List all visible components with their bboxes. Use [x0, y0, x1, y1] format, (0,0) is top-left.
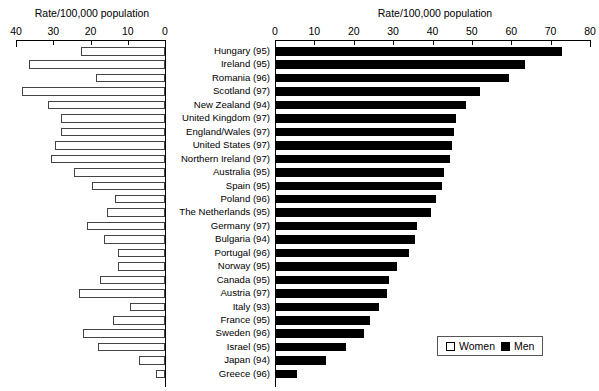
category-label: Norway (95)	[168, 260, 270, 271]
right-axis-tick	[511, 40, 512, 45]
table-row	[115, 195, 165, 204]
table-row	[83, 329, 165, 338]
table-row	[100, 276, 165, 285]
table-row	[74, 168, 165, 177]
category-label: Israel (95)	[168, 341, 270, 352]
category-label: Australia (95)	[168, 166, 270, 177]
table-row	[275, 101, 466, 110]
right-axis-tick	[551, 40, 552, 45]
category-label: Bulgaria (94)	[168, 233, 270, 244]
table-row	[29, 60, 165, 69]
legend-label-women: Women	[459, 340, 495, 352]
category-label: Ireland (95)	[168, 58, 270, 69]
table-row	[275, 195, 436, 204]
left-axis-tick	[128, 40, 129, 45]
left-axis-tick	[53, 40, 54, 45]
chart-legend: Women Men	[437, 336, 543, 356]
category-label: The Netherlands (95)	[168, 206, 270, 217]
category-label: Northern Ireland (97)	[168, 153, 270, 164]
category-label: New Zealand (94)	[168, 99, 270, 110]
category-label: United States (97)	[168, 139, 270, 150]
table-row	[92, 182, 165, 191]
table-row	[107, 208, 165, 217]
left-axis-tick-label: 0	[151, 25, 179, 37]
category-label: France (95)	[168, 314, 270, 325]
right-axis-title: Rate/100,000 population	[275, 7, 595, 19]
table-row	[156, 370, 165, 379]
table-row	[275, 316, 370, 325]
category-label: Sweden (96)	[168, 327, 270, 338]
right-axis-tick-label: 70	[537, 25, 565, 37]
table-row	[81, 47, 165, 56]
category-label: Hungary (95)	[168, 45, 270, 56]
table-row	[275, 74, 509, 83]
paired-bar-chart: Rate/100,000 population Rate/100,000 pop…	[0, 0, 599, 391]
table-row	[48, 101, 165, 110]
table-row	[275, 356, 326, 365]
right-axis-tick-label: 0	[261, 25, 289, 37]
table-row	[51, 155, 165, 164]
table-row	[275, 235, 415, 244]
table-row	[275, 60, 525, 69]
category-label: Scotland (97)	[168, 85, 270, 96]
right-axis-tick-label: 20	[340, 25, 368, 37]
table-row	[61, 128, 165, 137]
table-row	[275, 87, 480, 96]
table-row	[55, 141, 165, 150]
category-label: Greece (96)	[168, 368, 270, 379]
category-label: England/Wales (97)	[168, 126, 270, 137]
right-axis-tick	[314, 40, 315, 45]
legend-label-men: Men	[514, 340, 534, 352]
left-axis-tick	[16, 40, 17, 47]
category-label: Canada (95)	[168, 274, 270, 285]
table-row	[275, 370, 297, 379]
category-label: Japan (94)	[168, 354, 270, 365]
left-axis-tick-label: 30	[39, 25, 67, 37]
right-axis-tick-label: 60	[497, 25, 525, 37]
legend-item-women: Women	[446, 340, 495, 352]
table-row	[113, 316, 165, 325]
category-label: Poland (96)	[168, 193, 270, 204]
table-row	[139, 356, 165, 365]
table-row	[275, 128, 454, 137]
right-axis-tick	[433, 40, 434, 45]
table-row	[275, 249, 409, 258]
table-row	[275, 343, 346, 352]
right-axis-tick-label: 50	[458, 25, 486, 37]
category-label: Austria (97)	[168, 287, 270, 298]
table-row	[118, 262, 165, 271]
table-row	[118, 249, 165, 258]
table-row	[275, 208, 431, 217]
table-row	[87, 222, 165, 231]
table-row	[96, 74, 165, 83]
left-axis-baseline	[165, 40, 166, 387]
table-row	[275, 289, 387, 298]
category-label: Italy (93)	[168, 301, 270, 312]
table-row	[275, 141, 452, 150]
left-axis-tick-label: 40	[2, 25, 30, 37]
table-row	[22, 87, 165, 96]
right-axis-tick	[393, 40, 394, 45]
table-row	[275, 262, 397, 271]
left-axis-tick-label: 20	[77, 25, 105, 37]
right-axis-tick	[590, 40, 591, 47]
table-row	[61, 114, 165, 123]
legend-swatch-women-icon	[446, 342, 455, 351]
left-axis-title: Rate/100,000 population	[12, 7, 172, 19]
table-row	[79, 289, 165, 298]
table-row	[275, 276, 389, 285]
table-row	[275, 222, 417, 231]
right-axis-tick-label: 40	[419, 25, 447, 37]
table-row	[275, 182, 442, 191]
category-label: United Kingdom (97)	[168, 112, 270, 123]
left-axis-tick	[91, 40, 92, 45]
table-row	[104, 235, 165, 244]
table-row	[275, 329, 364, 338]
table-row	[130, 303, 165, 312]
category-label: Portugal (96)	[168, 247, 270, 258]
right-axis-tick	[354, 40, 355, 45]
legend-swatch-men-icon	[501, 342, 510, 351]
table-row	[275, 114, 456, 123]
left-axis-tick-label: 10	[114, 25, 142, 37]
category-label: Spain (95)	[168, 180, 270, 191]
